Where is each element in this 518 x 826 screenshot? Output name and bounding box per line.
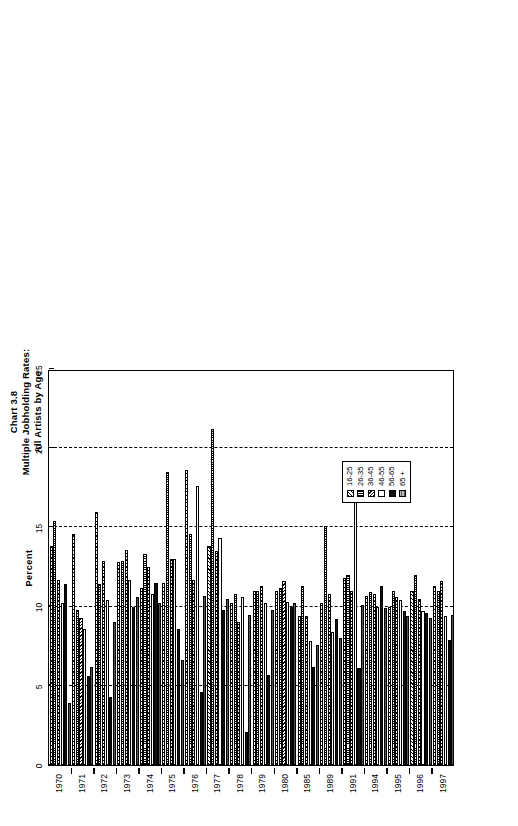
y-tick-mark (228, 768, 229, 774)
bar (68, 703, 71, 765)
bar (335, 619, 338, 765)
x-tick-label: 20 (34, 444, 44, 453)
bar (109, 697, 112, 765)
bar-group (229, 371, 252, 765)
bar (158, 603, 161, 765)
bar (245, 732, 248, 765)
bar (309, 641, 312, 765)
bar (448, 640, 451, 765)
rotated-chart-canvas: Chart 3.8 Multiple Jobholding Rates: All… (0, 0, 518, 826)
legend-label: 36-45 (367, 467, 375, 486)
bar (200, 692, 203, 765)
bar (298, 616, 301, 765)
legend-item: 65 + (399, 467, 407, 497)
bar (113, 622, 116, 765)
bar-group (387, 371, 410, 765)
bar (170, 559, 173, 765)
bar-group (184, 371, 207, 765)
bar (72, 534, 75, 765)
x-axis-tick-labels: 0510152025 (34, 0, 46, 826)
y-category-label: 1977 (212, 774, 222, 793)
legend-label: 16-25 (346, 467, 354, 486)
bar-group (410, 371, 433, 765)
y-tick-mark (183, 768, 184, 774)
bar (237, 622, 240, 765)
bar (365, 596, 368, 765)
y-category-label: 1980 (280, 774, 290, 793)
y-tick-mark (206, 768, 207, 774)
legend-swatch (368, 490, 375, 497)
bar (222, 610, 225, 765)
x-tick-mark (49, 368, 54, 369)
bar (121, 561, 124, 765)
bar (203, 596, 206, 765)
bar (444, 616, 447, 765)
bar (418, 599, 421, 765)
bar (117, 562, 120, 765)
x-axis-title: Percent (24, 370, 34, 766)
y-tick-mark (274, 768, 275, 774)
bar (253, 591, 256, 765)
bar (305, 616, 308, 765)
bar (373, 594, 376, 765)
bar (87, 676, 90, 765)
bar (61, 603, 64, 765)
bar (136, 597, 139, 765)
bar (234, 594, 237, 765)
bar (346, 575, 349, 765)
bar (256, 591, 259, 765)
legend-swatch (389, 490, 396, 497)
x-tick-label: 5 (34, 684, 44, 689)
bar-group (139, 371, 162, 765)
y-tick-mark (296, 768, 297, 774)
bar (173, 559, 176, 765)
bar (395, 597, 398, 765)
bar (140, 588, 143, 765)
bar (95, 512, 98, 765)
y-tick-mark (431, 768, 432, 774)
legend-label: 26-35 (357, 467, 365, 486)
y-category-label: 1994 (370, 774, 380, 793)
bar (196, 486, 199, 765)
legend-item: 16-25 (346, 467, 354, 497)
bar-group (365, 371, 388, 765)
bar (357, 668, 360, 765)
bar (324, 526, 327, 765)
bar-group (72, 371, 95, 765)
bar (215, 551, 218, 765)
bar (440, 581, 443, 765)
x-tick-label: 0 (34, 764, 44, 769)
bar-group (117, 371, 140, 765)
bar (293, 603, 296, 765)
bar (343, 578, 346, 765)
bar (154, 583, 157, 765)
y-category-label: 1974 (145, 774, 155, 793)
bar (350, 591, 353, 765)
bar (53, 521, 56, 765)
legend-swatch (378, 490, 385, 497)
bar (425, 613, 428, 765)
bar (392, 591, 395, 765)
legend-label: 65 + (399, 471, 407, 486)
bar (286, 602, 289, 765)
y-category-label: 1995 (393, 774, 403, 793)
bar (177, 629, 180, 765)
y-category-label: 1985 (302, 774, 312, 793)
y-tick-mark (93, 768, 94, 774)
legend-label: 56-65 (388, 467, 396, 486)
bar (79, 618, 82, 765)
y-tick-mark (364, 768, 365, 774)
bar (282, 581, 285, 765)
bar (331, 632, 334, 765)
bar (102, 561, 105, 765)
x-tick-label: 10 (34, 603, 44, 612)
bar (433, 586, 436, 765)
x-tick-label: 15 (34, 524, 44, 533)
bar (132, 607, 135, 765)
y-category-label: 1973 (122, 774, 132, 793)
bar (369, 592, 372, 765)
bar (226, 599, 229, 765)
bar (207, 546, 210, 765)
bar (83, 629, 86, 765)
y-tick-mark (319, 768, 320, 774)
